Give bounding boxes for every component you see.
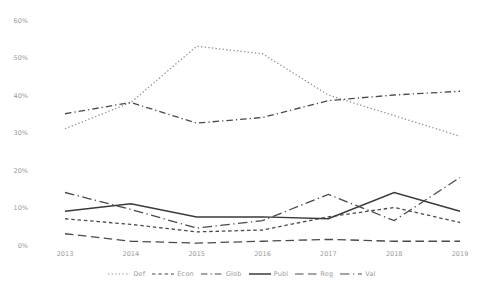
legend-label-val: Val <box>365 270 375 278</box>
y-tick-label: 0% <box>18 242 28 250</box>
x-tick-label: 2014 <box>123 250 140 258</box>
y-tick-label: 60% <box>14 17 28 25</box>
legend-item-econ: Econ <box>152 270 194 278</box>
legend-line-sample-val <box>340 271 362 277</box>
legend-label-glob: Glob <box>226 270 242 278</box>
line-chart: 0%10%20%30%40%50%60%20132014201520162017… <box>0 0 484 284</box>
legend-line-sample-def <box>108 271 130 277</box>
x-tick-label: 2019 <box>452 250 469 258</box>
series-line-econ <box>65 208 460 232</box>
y-tick-label: 20% <box>14 167 28 175</box>
series-line-val <box>65 178 460 229</box>
legend-label-econ: Econ <box>177 270 194 278</box>
legend-item-reg: Reg <box>295 270 333 278</box>
legend-item-glob: Glob <box>201 270 242 278</box>
legend-label-def: Def <box>133 270 145 278</box>
legend-item-val: Val <box>340 270 375 278</box>
legend-line-sample-econ <box>152 271 174 277</box>
series-line-publ <box>65 193 460 219</box>
legend-item-publ: Publ <box>249 270 289 278</box>
legend-line-sample-publ <box>249 271 271 277</box>
x-tick-label: 2017 <box>320 250 337 258</box>
legend-label-reg: Reg <box>320 270 333 278</box>
y-tick-label: 50% <box>14 54 28 62</box>
y-tick-label: 40% <box>14 92 28 100</box>
y-tick-label: 10% <box>14 204 28 212</box>
legend-item-def: Def <box>108 270 145 278</box>
chart-legend: DefEconGlobPublRegVal <box>0 270 484 278</box>
y-tick-label: 30% <box>14 129 28 137</box>
x-tick-label: 2018 <box>386 250 403 258</box>
legend-line-sample-reg <box>295 271 317 277</box>
series-line-def <box>65 46 460 136</box>
series-line-reg <box>65 234 460 243</box>
x-tick-label: 2015 <box>188 250 205 258</box>
x-tick-label: 2016 <box>254 250 271 258</box>
chart-canvas: 0%10%20%30%40%50%60%20132014201520162017… <box>0 0 484 284</box>
x-tick-label: 2013 <box>57 250 74 258</box>
series-line-glob <box>65 91 460 123</box>
legend-line-sample-glob <box>201 271 223 277</box>
legend-label-publ: Publ <box>274 270 289 278</box>
